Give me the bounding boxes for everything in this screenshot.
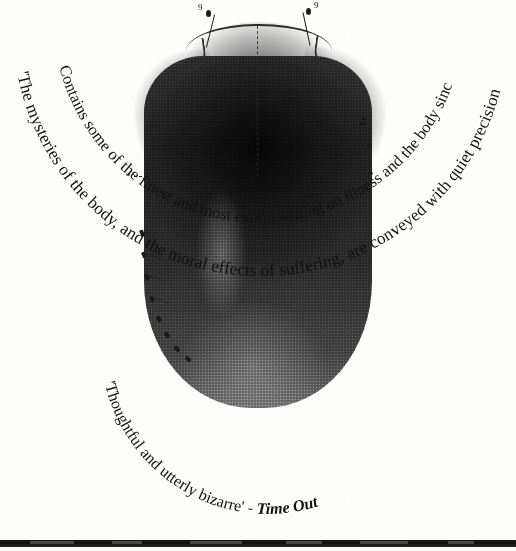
review-middle-source: Awakenings <box>0 0 6 4</box>
review-middle-text: Contains some of the finest and most exo… <box>0 0 456 227</box>
review-quote-arcs: 'The mysteries of the body, and the mora… <box>0 0 516 551</box>
review-inner-text: 'Thoughtful and utterly bizarre' - Time … <box>101 379 321 518</box>
review-outer-source: Independent <box>0 0 5 4</box>
review-outer-quote: 'The mysteries of the body, and the mora… <box>0 0 504 280</box>
review-outer-text: 'The mysteries of the body, and the mora… <box>0 0 504 280</box>
review-inner-quote: 'Thoughtful and utterly bizarre' <box>101 379 246 516</box>
bottom-rule <box>0 540 516 547</box>
book-back-cover: 9 9 Le t s s s <box>0 0 516 551</box>
review-middle-quote: Contains some of the finest and most exo… <box>0 0 456 227</box>
review-inner-source: Time Out <box>256 493 320 518</box>
